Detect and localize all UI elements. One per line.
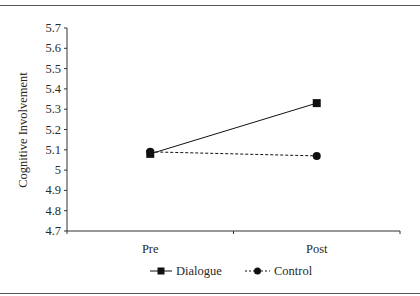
x-tick-label: Pre bbox=[142, 242, 159, 256]
y-tick-label: 5.6 bbox=[45, 41, 61, 55]
series-line-dialogue bbox=[150, 103, 317, 154]
series-line-control bbox=[150, 152, 317, 156]
y-tick-label: 5.5 bbox=[45, 62, 61, 76]
y-tick-label: 4.9 bbox=[45, 183, 61, 197]
y-axis: 5.75.65.55.45.35.25.154.94.84.7 bbox=[45, 21, 67, 238]
y-tick-label: 5 bbox=[55, 163, 61, 177]
x-axis: PrePost bbox=[67, 231, 400, 256]
series-lines bbox=[146, 99, 321, 160]
legend: Dialogue Control bbox=[150, 264, 313, 278]
y-tick-label: 5.3 bbox=[45, 102, 61, 116]
square-marker-icon bbox=[313, 99, 321, 107]
y-tick-label: 4.8 bbox=[45, 204, 61, 218]
legend-item-dialogue: Dialogue bbox=[150, 264, 222, 278]
y-tick-label: 5.4 bbox=[45, 82, 61, 96]
x-tick-label: Post bbox=[306, 242, 328, 256]
circle-marker-icon bbox=[254, 268, 261, 275]
y-tick-label: 5.2 bbox=[45, 123, 61, 137]
y-tick-label: 5.7 bbox=[45, 21, 61, 35]
line-chart: 5.75.65.55.45.35.25.154.94.84.7 PrePost … bbox=[0, 0, 420, 296]
legend-label-control: Control bbox=[274, 264, 313, 278]
legend-label-dialogue: Dialogue bbox=[176, 264, 222, 278]
circle-marker-icon bbox=[313, 152, 321, 160]
legend-item-control: Control bbox=[245, 264, 313, 278]
circle-marker-icon bbox=[146, 148, 154, 156]
y-tick-label: 5.1 bbox=[45, 143, 61, 157]
square-marker-icon bbox=[158, 268, 165, 275]
y-tick-label: 4.7 bbox=[45, 224, 61, 238]
y-axis-label: Cognitive Involvement bbox=[16, 72, 30, 188]
